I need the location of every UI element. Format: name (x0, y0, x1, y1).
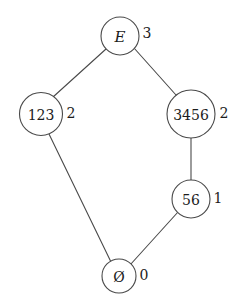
rank-label-E: 3 (143, 25, 152, 41)
node-56[interactable]: 56 (172, 180, 210, 218)
rank-label-123: 2 (67, 105, 76, 121)
node-label-E: E (114, 28, 126, 46)
rank-label-3456: 2 (220, 105, 229, 121)
nodes-group: E123345656Ø (20, 17, 216, 293)
edges-group (49, 48, 191, 265)
edge-56-empty (130, 212, 178, 265)
node-label-56: 56 (182, 192, 200, 208)
rank-label-empty: 0 (140, 267, 149, 283)
edge-E-3456 (134, 48, 176, 95)
diagram-canvas: E123345656Ø 32210 (0, 0, 244, 305)
edge-123-empty (49, 134, 111, 262)
node-label-empty: Ø (113, 269, 124, 285)
rank-label-56: 1 (214, 190, 223, 206)
node-empty[interactable]: Ø (102, 259, 136, 293)
node-123[interactable]: 123 (20, 93, 63, 136)
node-label-3456: 3456 (173, 107, 209, 123)
node-E[interactable]: E (101, 17, 139, 55)
node-label-123: 123 (28, 107, 55, 123)
node-3456[interactable]: 3456 (167, 90, 215, 138)
hasse-diagram-container: E123345656Ø 32210 (0, 0, 244, 305)
edge-E-123 (53, 49, 106, 97)
